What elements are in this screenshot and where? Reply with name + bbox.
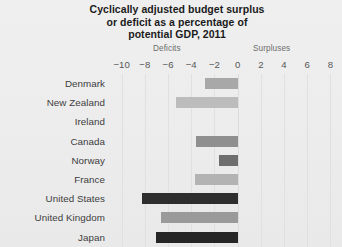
x-tick-label: 6 bbox=[305, 59, 310, 71]
chart-title-line-3: potential GDP, 2011 bbox=[62, 28, 292, 41]
deficits-axis-annotation: Deficits bbox=[153, 44, 181, 53]
x-tick-label: 8 bbox=[328, 59, 333, 71]
x-tick-label: −10 bbox=[113, 59, 129, 71]
bar-row bbox=[110, 93, 342, 112]
bar-rows bbox=[110, 74, 342, 247]
bar-row bbox=[110, 112, 342, 131]
bar-row bbox=[110, 189, 342, 208]
bar bbox=[161, 212, 238, 223]
category-label: France bbox=[0, 170, 105, 189]
x-tick-label: −4 bbox=[186, 59, 197, 71]
bar bbox=[142, 193, 237, 204]
bar bbox=[205, 78, 237, 89]
bar-row bbox=[110, 132, 342, 151]
bar bbox=[196, 136, 238, 147]
bar bbox=[195, 174, 238, 185]
plot-area bbox=[110, 74, 342, 247]
bar bbox=[176, 97, 237, 108]
category-label: Canada bbox=[0, 132, 105, 151]
category-label: United States bbox=[0, 189, 105, 208]
bar-row bbox=[110, 228, 342, 247]
bar-row bbox=[110, 74, 342, 93]
chart-title-line-1: Cyclically adjusted budget surplus bbox=[62, 3, 292, 16]
chart-container: Cyclically adjusted budget surplus or de… bbox=[0, 0, 342, 247]
x-axis-tick-labels: −10−8−6−4−202468 bbox=[0, 59, 342, 72]
surpluses-axis-annotation: Surpluses bbox=[253, 44, 290, 53]
category-label: Japan bbox=[0, 228, 105, 247]
bar-row bbox=[110, 151, 342, 170]
category-label: New Zealand bbox=[0, 93, 105, 112]
x-tick-label: 0 bbox=[235, 59, 240, 71]
chart-title: Cyclically adjusted budget surplus or de… bbox=[62, 3, 292, 41]
bar-row bbox=[110, 170, 342, 189]
x-tick-label: −6 bbox=[163, 59, 174, 71]
x-tick-label: 4 bbox=[281, 59, 286, 71]
category-label: United Kingdom bbox=[0, 208, 105, 227]
category-axis-labels: DenmarkNew ZealandIrelandCanadaNorwayFra… bbox=[0, 74, 105, 247]
bar bbox=[219, 155, 238, 166]
x-tick-label: 2 bbox=[258, 59, 263, 71]
category-label: Denmark bbox=[0, 74, 105, 93]
bar-row bbox=[110, 208, 342, 227]
chart-title-line-2: or deficit as a percentage of bbox=[62, 16, 292, 29]
x-tick-label: −2 bbox=[209, 59, 220, 71]
bar bbox=[156, 232, 237, 243]
x-tick-label: −8 bbox=[139, 59, 150, 71]
category-label: Ireland bbox=[0, 112, 105, 131]
category-label: Norway bbox=[0, 151, 105, 170]
